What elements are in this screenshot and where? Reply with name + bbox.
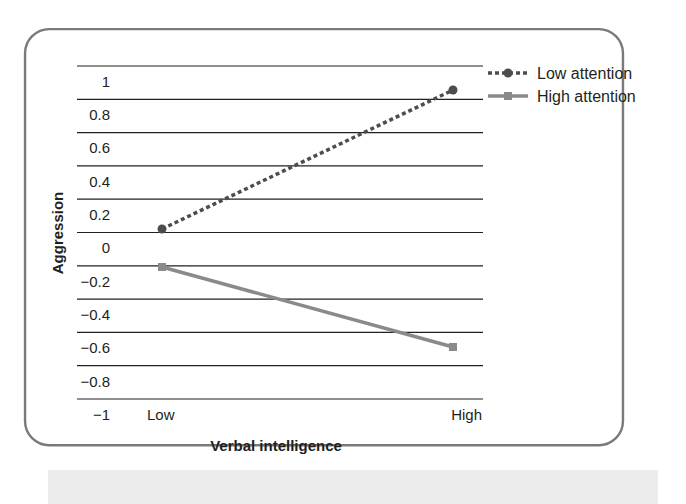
- y-tick: 0.2: [89, 206, 110, 223]
- y-tick: −0.6: [80, 339, 110, 356]
- y-tick: −0.4: [80, 306, 110, 323]
- circle-marker-icon: [449, 86, 458, 95]
- y-tick: −0.2: [80, 273, 110, 290]
- y-tick: 0.8: [89, 106, 110, 123]
- legend-low-attention: Low attention: [537, 65, 632, 82]
- y-axis-title: Aggression: [49, 192, 66, 275]
- legend-high-attention: High attention: [537, 88, 636, 105]
- y-tick: −1: [93, 406, 110, 423]
- x-tick-low: Low: [147, 406, 175, 423]
- square-marker-icon: [449, 343, 457, 351]
- legend-circle-icon: [504, 69, 513, 78]
- circle-marker-icon: [158, 225, 167, 234]
- y-tick: 0.4: [89, 173, 110, 190]
- card-border: [25, 29, 623, 445]
- y-tick: −0.8: [80, 373, 110, 390]
- y-tick: 1: [102, 73, 110, 90]
- square-marker-icon: [158, 263, 166, 271]
- legend-square-icon: [504, 92, 512, 100]
- x-axis-title: Verbal intelligence: [210, 437, 342, 454]
- y-tick: 0: [102, 239, 110, 256]
- y-tick: 0.6: [89, 139, 110, 156]
- x-tick-high: High: [451, 406, 482, 423]
- chart: 1 0.8 0.6 0.4 0.2 0 −0.2 −0.4 −0.6 −0.8 …: [0, 0, 686, 504]
